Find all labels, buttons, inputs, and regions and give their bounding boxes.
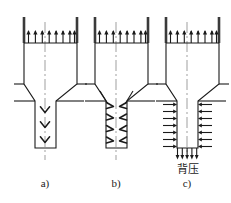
back-pressure-label: 背压 bbox=[160, 160, 216, 176]
caption-panel-b: b) bbox=[104, 177, 128, 189]
caption-panel-c: c) bbox=[175, 177, 199, 189]
caption-panel-a: a) bbox=[33, 177, 57, 189]
nozzle-flow-figure: 背压 a) b) c) bbox=[0, 0, 231, 203]
